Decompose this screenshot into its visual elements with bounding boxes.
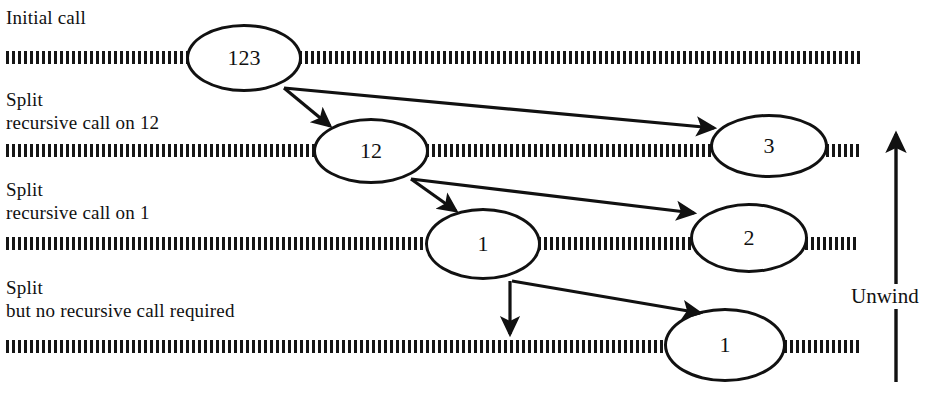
arrow-123-to-3 <box>284 88 714 128</box>
diagram-canvas: Initial call Split recursive call on 12 … <box>0 0 934 395</box>
arrow-1-to-1 <box>512 281 700 313</box>
arrow-123-to-12 <box>284 88 330 126</box>
unwind-label: Unwind <box>849 284 921 309</box>
arrow-layer <box>0 0 934 395</box>
